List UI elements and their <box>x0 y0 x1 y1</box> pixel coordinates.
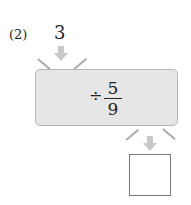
decor-ray <box>74 58 87 69</box>
fraction-numerator: 5 <box>104 79 122 97</box>
down-arrow-icon <box>143 136 157 152</box>
problem-label: (2) <box>9 27 27 42</box>
decor-ray <box>163 128 176 139</box>
down-arrow-icon <box>54 46 68 62</box>
fraction-denominator: 9 <box>104 100 122 118</box>
fraction: 5 9 <box>104 79 122 118</box>
decor-ray <box>38 58 51 69</box>
input-value: 3 <box>54 22 65 43</box>
answer-box[interactable] <box>129 154 171 196</box>
division-operator: ÷ <box>89 86 102 105</box>
decor-ray <box>126 129 139 140</box>
